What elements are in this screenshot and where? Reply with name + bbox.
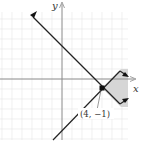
point-label: (4, −1) <box>80 109 110 119</box>
intersection-point <box>100 86 105 91</box>
y-axis-label: y <box>51 0 58 11</box>
arrow-head-icon <box>30 11 37 18</box>
line-positive-slope <box>53 71 120 140</box>
line-negative-slope <box>33 17 120 104</box>
grid <box>0 12 128 140</box>
graph: y x (4, −1) <box>0 0 158 142</box>
x-axis-label: x <box>133 83 139 94</box>
